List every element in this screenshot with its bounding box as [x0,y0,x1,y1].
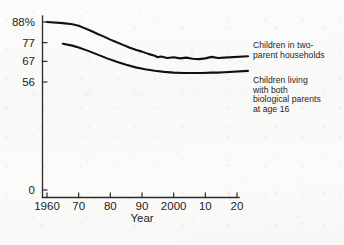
x-tick-label: 90 [136,200,149,212]
x-tick-label: 10 [199,200,212,212]
chart-container: 056677788% 196070809020001020 Year Child… [0,0,344,245]
y-axis-tick-labels: 056677788% [12,16,35,196]
x-axis-title: Year [130,212,153,224]
y-tick-label: 88% [12,16,35,28]
data-line-two-parent-households [47,22,248,59]
y-tick-label: 77 [22,37,35,49]
x-tick-label: 2000 [161,200,187,212]
series-label-two-parent-households: Children in two- parent households [253,41,341,60]
line-chart: 056677788% 196070809020001020 Year [0,0,344,245]
x-tick-label: 70 [72,200,85,212]
axis-tick-marks [43,22,238,198]
y-tick-label: 56 [22,76,35,88]
y-tick-label: 67 [22,55,35,67]
x-tick-label: 80 [104,200,117,212]
series-label-both-biological-parents: Children living with both biological par… [253,76,341,114]
x-tick-label: 20 [231,200,244,212]
x-tick-label: 1960 [34,200,60,212]
y-tick-label: 0 [29,184,35,196]
x-axis-tick-labels: 196070809020001020 [34,200,243,212]
